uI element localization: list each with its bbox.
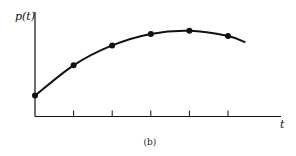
x-ticks (74, 111, 228, 117)
data-point-marker (71, 62, 77, 68)
data-point-marker (32, 93, 38, 99)
x-axis-label: t (280, 118, 285, 131)
data-point-marker (148, 31, 154, 37)
y-axis-label: p(t) (15, 10, 35, 23)
data-point-marker (225, 33, 231, 39)
data-point-marker (186, 28, 192, 34)
chart-canvas: p(t) t (b) (0, 0, 296, 156)
data-curve (35, 31, 245, 96)
figure-caption: (b) (144, 137, 157, 147)
data-point-marker (109, 42, 115, 48)
